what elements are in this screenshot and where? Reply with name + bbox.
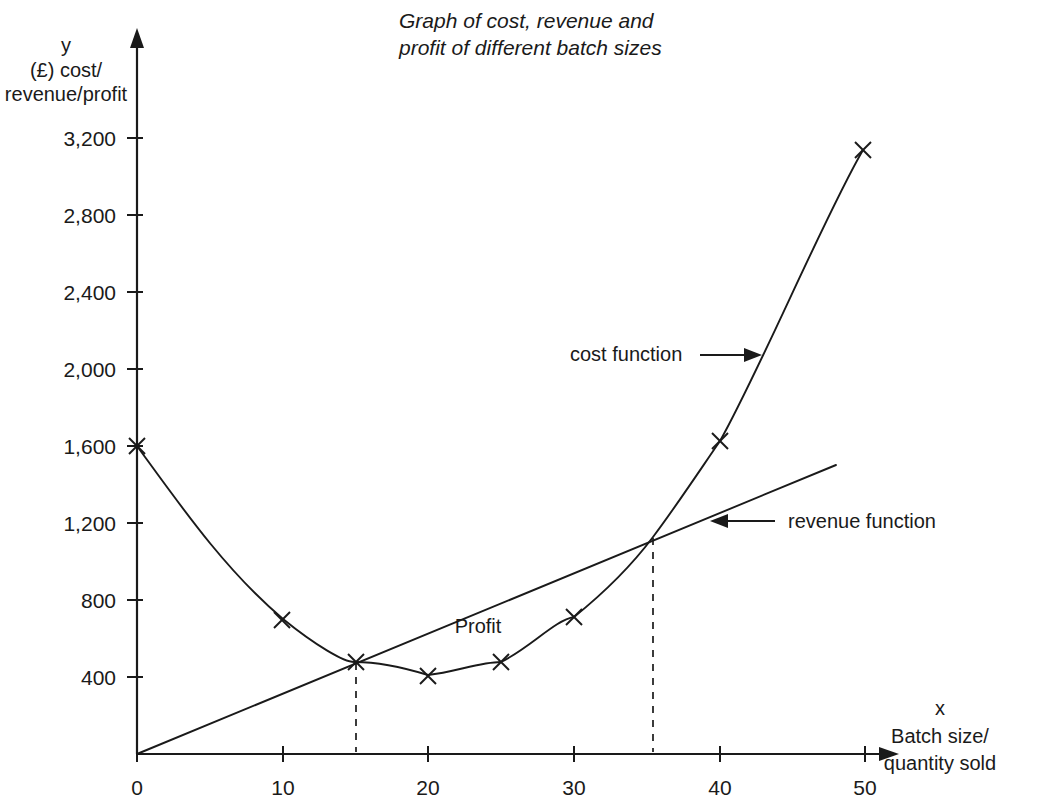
- y-tick-group: 2,800: [63, 204, 143, 227]
- y-tick-group: 800: [81, 589, 143, 612]
- x-axis-label-line-1: x: [935, 697, 945, 719]
- x-tick-label: 10: [271, 776, 294, 799]
- data-point-marker: [566, 609, 582, 625]
- axes: [130, 28, 899, 761]
- x-tick-label: 20: [416, 776, 439, 799]
- y-axis-arrowhead: [130, 28, 144, 48]
- series-cost-function-markers: [129, 142, 871, 684]
- y-tick-label: 1,200: [63, 512, 116, 535]
- y-tick-label: 1,600: [63, 435, 116, 458]
- y-tick-group: 1,200: [63, 512, 143, 535]
- y-tick-label: 400: [81, 666, 116, 689]
- y-tick-label: 3,200: [63, 127, 116, 150]
- chart-svg: Graph of cost, revenue and profit of dif…: [0, 0, 1042, 805]
- x-axis-label-line-2: Batch size/: [891, 725, 989, 747]
- chart-title: Graph of cost, revenue and profit of dif…: [398, 9, 662, 59]
- series-cost-function-curve: [137, 150, 863, 675]
- y-axis-label-line-2: (£) cost/: [30, 59, 103, 81]
- y-tick-label: 800: [81, 589, 116, 612]
- y-tick-label: 2,000: [63, 358, 116, 381]
- y-axis-ticks: 400 800 1,200 1,600 2,000 2,400 2,800 3: [63, 127, 143, 689]
- data-point-marker: [855, 142, 871, 158]
- cost-function-annotation: cost function: [570, 343, 762, 365]
- series-revenue-function-line: [137, 465, 836, 754]
- cost-function-annotation-arrowhead: [744, 348, 762, 362]
- y-tick-group: 1,600: [63, 435, 143, 458]
- y-tick-group: 3,200: [63, 127, 143, 150]
- x-tick-label: 0: [131, 776, 143, 799]
- data-point-marker: [274, 612, 290, 628]
- cost-function-annotation-label: cost function: [570, 343, 682, 365]
- data-point-marker: [420, 668, 436, 684]
- x-axis-label-line-3: quantity sold: [884, 752, 996, 774]
- x-tick-label: 50: [853, 776, 876, 799]
- chart-figure: Graph of cost, revenue and profit of dif…: [0, 0, 1042, 805]
- x-tick-label: 30: [562, 776, 585, 799]
- y-axis-label: y (£) cost/ revenue/profit: [5, 34, 128, 105]
- y-tick-group: 2,000: [63, 358, 143, 381]
- chart-title-line-1: Graph of cost, revenue and: [399, 9, 655, 32]
- y-tick-label: 2,400: [63, 281, 116, 304]
- y-tick-group: 2,400: [63, 281, 143, 304]
- x-axis-label: x Batch size/ quantity sold: [884, 697, 996, 774]
- x-tick-label: 40: [708, 776, 731, 799]
- revenue-function-annotation: revenue function: [710, 510, 936, 532]
- revenue-function-annotation-label: revenue function: [788, 510, 936, 532]
- y-tick-label: 2,800: [63, 204, 116, 227]
- y-axis-label-line-1: y: [61, 34, 71, 56]
- y-tick-group: 400: [81, 666, 143, 689]
- data-point-marker: [712, 433, 728, 449]
- chart-title-line-2: profit of different batch sizes: [398, 36, 662, 59]
- profit-annotation-label: Profit: [455, 615, 502, 637]
- y-axis-label-line-3: revenue/profit: [5, 83, 128, 105]
